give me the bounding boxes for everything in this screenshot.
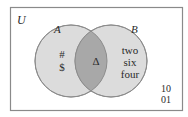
set-a-label: A (53, 23, 61, 35)
outside-element: 10 (161, 83, 171, 94)
set-b-label: B (131, 23, 138, 35)
universe-label: U (17, 13, 27, 27)
set-b-element: two (122, 44, 139, 56)
venn-diagram: U A B # $ Δ two six four 10 01 (0, 0, 188, 117)
set-a-element: $ (59, 61, 65, 73)
intersection-element: Δ (92, 55, 99, 67)
outside-element: 01 (161, 94, 171, 105)
set-b-element: four (121, 68, 140, 80)
set-a-element: # (59, 48, 65, 60)
set-b-element: six (124, 56, 137, 68)
